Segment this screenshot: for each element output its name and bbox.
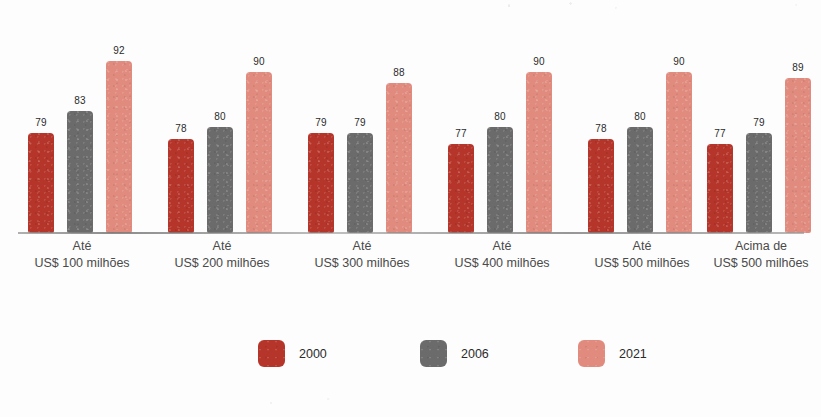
legend-item-2006[interactable]: 2006 [420, 340, 489, 367]
bar-group: 778090 [448, 18, 552, 233]
category-label-1: AtéUS$ 100 milhões [2, 238, 162, 272]
bar-2006-4[interactable] [487, 127, 513, 233]
category-label-2: AtéUS$ 200 milhões [142, 238, 302, 272]
bar-value-label: 83 [74, 95, 86, 106]
bar-2000-2[interactable] [168, 139, 194, 233]
category-label-line1: Até [142, 238, 302, 255]
bar-value-label: 90 [533, 56, 545, 67]
bar-2006-2[interactable] [207, 127, 233, 233]
bar-2000-5[interactable] [588, 139, 614, 233]
bar-value-label: 77 [714, 128, 726, 139]
category-label-4: AtéUS$ 400 milhões [422, 238, 582, 272]
bar-value-label: 92 [113, 45, 125, 56]
bar-value-label: 79 [35, 117, 47, 128]
scan-artifact-bottom [0, 393, 821, 413]
bar-group: 797988 [308, 18, 412, 233]
bar-2006-5[interactable] [627, 127, 653, 233]
category-label-6: Acima deUS$ 500 milhões [681, 238, 821, 272]
category-label-line1: Acima de [681, 238, 821, 255]
x-axis-baseline [18, 232, 804, 234]
legend-label: 2021 [619, 347, 647, 361]
bar-group: 777989 [707, 18, 811, 233]
bar-value-label: 89 [792, 62, 804, 73]
bar-value-label: 80 [494, 111, 506, 122]
scan-artifact-top [0, 0, 821, 14]
legend-swatch-icon [258, 340, 285, 367]
bar-2000-1[interactable] [28, 133, 54, 233]
bar-2006-6[interactable] [746, 133, 772, 233]
bar-value-label: 78 [175, 123, 187, 134]
category-label-line2: US$ 400 milhões [422, 255, 582, 272]
bar-value-label: 79 [315, 117, 327, 128]
bar-value-label: 80 [214, 111, 226, 122]
category-axis-labels: AtéUS$ 100 milhõesAtéUS$ 200 milhõesAtéU… [0, 238, 821, 282]
bar-2000-4[interactable] [448, 144, 474, 233]
bar-value-label: 90 [673, 56, 685, 67]
category-label-line2: US$ 100 milhões [2, 255, 162, 272]
bar-2006-3[interactable] [347, 133, 373, 233]
bar-2021-5[interactable] [666, 72, 692, 233]
bar-value-label: 77 [455, 128, 467, 139]
bar-2021-3[interactable] [386, 83, 412, 233]
legend-label: 2006 [461, 347, 489, 361]
bar-value-label: 88 [393, 67, 405, 78]
category-label-line1: Até [282, 238, 442, 255]
category-label-line1: Até [422, 238, 582, 255]
category-label-line2: US$ 300 milhões [282, 255, 442, 272]
legend-item-2000[interactable]: 2000 [258, 340, 327, 367]
category-label-line2: US$ 500 milhões [681, 255, 821, 272]
legend-item-2021[interactable]: 2021 [578, 340, 647, 367]
bar-2021-4[interactable] [526, 72, 552, 233]
legend-label: 2000 [299, 347, 327, 361]
bar-value-label: 79 [354, 117, 366, 128]
category-label-line1: Até [2, 238, 162, 255]
bar-value-label: 90 [253, 56, 265, 67]
legend-swatch-icon [420, 340, 447, 367]
chart-legend: 200020062021 [0, 340, 821, 374]
bar-value-label: 78 [595, 123, 607, 134]
bar-2021-2[interactable] [246, 72, 272, 233]
bar-value-label: 79 [753, 117, 765, 128]
legend-swatch-icon [578, 340, 605, 367]
bar-2000-6[interactable] [707, 144, 733, 233]
bar-2021-1[interactable] [106, 61, 132, 233]
bar-value-label: 80 [634, 111, 646, 122]
bar-group: 788090 [168, 18, 272, 233]
bar-group: 798392 [28, 18, 132, 233]
plot-area: 798392788090797988778090788090777989 [0, 18, 821, 233]
bar-2021-6[interactable] [785, 78, 811, 233]
bar-2000-3[interactable] [308, 133, 334, 233]
category-label-line2: US$ 200 milhões [142, 255, 302, 272]
bar-2006-1[interactable] [67, 111, 93, 233]
bar-chart-figure: 798392788090797988778090788090777989 Até… [0, 0, 821, 417]
bar-group: 788090 [588, 18, 692, 233]
category-label-3: AtéUS$ 300 milhões [282, 238, 442, 272]
